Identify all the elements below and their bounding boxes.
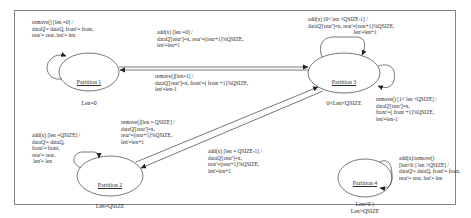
state-diagram: Partition 1 Len=0 Partition 3 0<Len<QSIZ… [0, 0, 471, 218]
state-partition-4-text: Partition 4 Len<0 || Len>QSIZE [338, 166, 392, 218]
state-condition: Len=0 [59, 100, 119, 107]
state-name: Partition 3 [308, 79, 380, 86]
transition-label-t4: add(x) [0< len <QSIZE-1] / dataQ'[rear']… [308, 16, 394, 36]
transition-label-t8: add(x) [len = QSIZE-1] / dataQ'[rear']=x… [208, 148, 262, 174]
transition-label-t3: remove()[len=1] / dataQ'[rear']=x, front… [155, 73, 248, 93]
transition-label-t5: remove() [1< len <QSIZE] / dataQ'[rear']… [376, 96, 437, 122]
state-partition-1-text: Partition 1 Len=0 [59, 65, 119, 121]
transition-label-t2: add(x) [len =0] / dataQ'[rear']=x, rear'… [157, 29, 243, 49]
state-condition: 0<Len<QSIZE [308, 100, 380, 107]
state-name: Partition 2 [77, 182, 143, 189]
transition-label-t1: remove() [len =0] / dataQ'= dataQ, front… [32, 19, 93, 39]
state-partition-2-text: Partition 2 Len=QSIZE [77, 168, 143, 218]
transition-label-t7: remove()[len = QSIZE] / dataQ'[rear']=x,… [121, 119, 175, 145]
transition-t5 [378, 65, 394, 88]
state-name: Partition 1 [59, 79, 119, 86]
transition-label-t9: add(x)/remove() [len<0 || len >QSIZE] / … [399, 155, 460, 181]
transition-label-t6: add(x) [len =QSIZE] / dataQ'= dataQ, fro… [32, 132, 80, 165]
state-name: Partition 4 [338, 180, 392, 187]
state-condition: Len=QSIZE [77, 203, 143, 210]
state-partition-3-text: Partition 3 0<Len<QSIZE [308, 65, 380, 121]
state-condition: Len<0 || Len>QSIZE [338, 201, 392, 215]
